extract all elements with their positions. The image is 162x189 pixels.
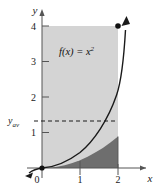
y-tick-label-2: 2 [31, 92, 36, 103]
figure-container: 1 2 3 4 0 1 2 y x yav f(x) = x2 [0, 0, 162, 189]
y-tick-label-1: 1 [31, 127, 36, 138]
curve-top-arrow-icon [122, 16, 131, 26]
plot-svg: 1 2 3 4 0 1 2 y x yav f(x) = x2 [0, 0, 162, 189]
y-axis-arrow-icon [39, 9, 44, 16]
function-label-base: f(x) = x [59, 46, 91, 58]
average-value-label: yav [7, 115, 20, 129]
y-tick-label-4: 4 [31, 21, 36, 32]
point-endpoint [115, 23, 121, 29]
function-label-exponent: 2 [91, 45, 95, 53]
curve-tail-arrow-icon [25, 173, 33, 179]
function-label: f(x) = x2 [59, 45, 95, 58]
average-value-label-sub: av [12, 121, 20, 129]
y-axis-label: y [32, 4, 38, 16]
x-tick-label-1: 1 [78, 174, 83, 185]
x-axis-arrow-icon [140, 165, 146, 170]
x-axis-label: x [147, 172, 153, 184]
x-tick-label-2: 2 [116, 174, 121, 185]
point-origin [39, 165, 44, 170]
x-tick-label-0: 0 [35, 174, 40, 185]
y-tick-label-3: 3 [31, 56, 36, 67]
